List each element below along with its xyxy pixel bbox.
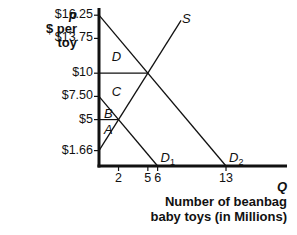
x-axis-symbol: Q bbox=[137, 179, 287, 194]
curve-label-d2: D2 bbox=[229, 150, 243, 167]
y-tick-label: $1.66 bbox=[62, 143, 93, 157]
curve-label-s: S bbox=[182, 11, 191, 26]
y-tick-label: $16.25 bbox=[55, 7, 93, 21]
area-label-d: D bbox=[112, 49, 121, 64]
y-tick-label: $7.50 bbox=[62, 88, 93, 102]
x-axis-text: Number of beanbag baby toys (in Millions… bbox=[137, 194, 287, 224]
x-axis-title: Q Number of beanbag baby toys (in Millio… bbox=[137, 179, 287, 224]
area-label-a: A bbox=[103, 122, 113, 137]
x-tick-label: 2 bbox=[115, 171, 122, 185]
y-tick-label: $5 bbox=[79, 112, 93, 126]
area-label-c: C bbox=[112, 84, 122, 99]
curve-label-d1: D1 bbox=[161, 150, 175, 167]
y-tick-label: $10 bbox=[72, 65, 93, 79]
area-label-b: B bbox=[104, 106, 113, 121]
y-tick-label: $13.75 bbox=[55, 30, 93, 44]
